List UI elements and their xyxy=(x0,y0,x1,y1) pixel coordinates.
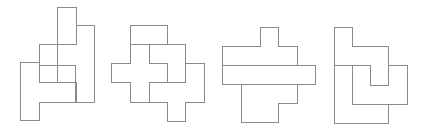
polyomino-diagram xyxy=(0,0,426,131)
figure-3 xyxy=(222,27,315,122)
piece-outline xyxy=(20,62,75,120)
piece-outline xyxy=(130,25,167,44)
piece-outline xyxy=(334,27,388,85)
piece-outline xyxy=(222,65,315,84)
piece-outline xyxy=(39,44,57,82)
piece-outline xyxy=(111,44,167,102)
piece-outline xyxy=(241,84,297,122)
figure-1 xyxy=(20,7,94,120)
piece-outline xyxy=(352,65,407,104)
piece-outline xyxy=(149,63,204,121)
figure-2 xyxy=(111,25,204,121)
piece-outline xyxy=(57,65,75,82)
piece-outline xyxy=(222,27,297,65)
piece-outline xyxy=(334,65,388,123)
diagram-canvas xyxy=(0,0,426,131)
figure-4 xyxy=(334,27,407,123)
